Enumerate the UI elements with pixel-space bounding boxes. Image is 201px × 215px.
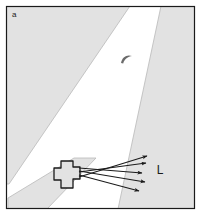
- panel-letter: a: [12, 10, 17, 19]
- figure-canvas: L a: [0, 0, 201, 215]
- region-label-L: L: [157, 163, 164, 177]
- figure-panel: L a: [0, 0, 201, 215]
